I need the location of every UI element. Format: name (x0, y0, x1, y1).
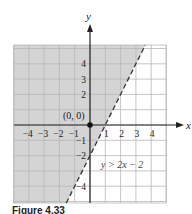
svg-text:1: 1 (104, 129, 109, 139)
y-axis-arrow-icon (87, 24, 93, 32)
svg-text:3: 3 (135, 129, 140, 139)
svg-text:2: 2 (119, 129, 124, 139)
svg-text:−2: −2 (76, 151, 86, 161)
svg-text:2: 2 (81, 90, 86, 100)
svg-text:−2: −2 (53, 129, 63, 139)
x-axis-label: x (185, 119, 191, 131)
svg-text:3: 3 (81, 75, 86, 85)
y-axis-label: y (85, 10, 91, 22)
svg-text:4: 4 (150, 129, 155, 139)
svg-text:−4: −4 (76, 182, 86, 192)
svg-text:−1: −1 (76, 136, 86, 146)
shaded-region (14, 45, 145, 203)
test-point-marker (87, 122, 93, 128)
inequality-graph: −4−3−2−11234432−1−2−4 (0, 0) y > 2x − 2 … (0, 0, 192, 214)
svg-text:4: 4 (81, 59, 86, 69)
figure-caption: Figure 4.33 (12, 205, 65, 214)
shade-polygon (14, 45, 145, 203)
inequality-label: y > 2x − 2 (100, 159, 143, 170)
svg-text:−4: −4 (23, 129, 33, 139)
x-axis-arrow-icon (176, 122, 184, 128)
test-point-label: (0, 0) (63, 110, 85, 122)
svg-text:−3: −3 (38, 129, 48, 139)
